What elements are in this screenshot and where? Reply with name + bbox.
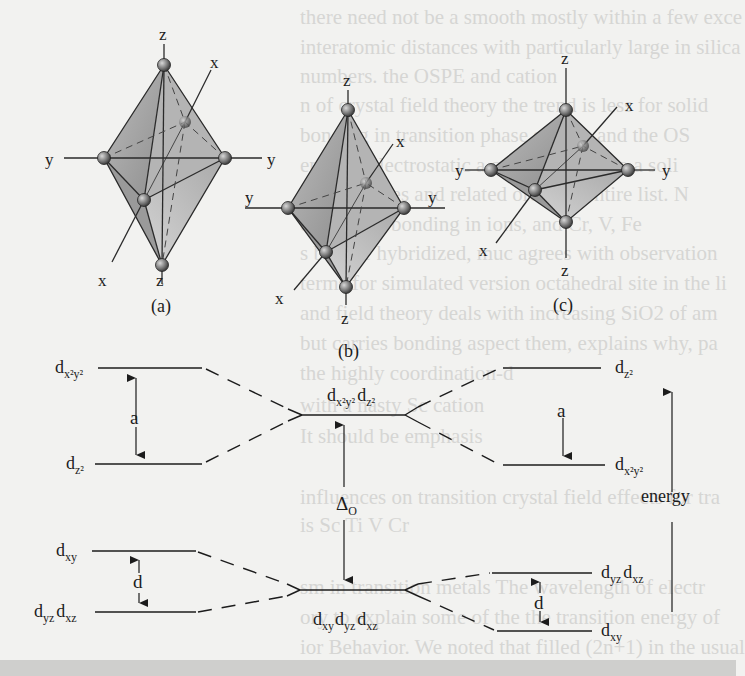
level-label-dz2: dz²	[66, 453, 84, 477]
axis-label-z: z	[343, 71, 351, 90]
level-label-dz2-right: dz²	[615, 357, 633, 381]
gap-label-a-left: a	[130, 407, 139, 428]
octahedron-regular: z x y y x z (b)	[245, 71, 445, 362]
level-label-dxy: dxy	[56, 540, 77, 564]
axis-label-z: z	[341, 309, 349, 328]
axis-label-x: x	[396, 132, 405, 151]
panel-label-b: (b)	[338, 341, 359, 362]
axis-label-z: z	[156, 271, 164, 290]
axis-label-y: y	[245, 188, 254, 207]
energy-level-diagram: a d ΔO a d energy dx²y² dz² dxy dyzdxz d…	[34, 357, 690, 644]
gap-label-d-right: d	[534, 592, 544, 613]
level-label-dyz-dxz-right: dyzdxz	[601, 562, 644, 586]
axis-label-x: x	[625, 96, 634, 115]
level-label-dxy-right: dxy	[601, 620, 622, 644]
axis-label-y: y	[662, 161, 671, 180]
gap-label-a-right: a	[557, 400, 566, 421]
axis-label-z: z	[561, 261, 569, 280]
panel-label-a: (a)	[151, 296, 171, 317]
axis-label-y: y	[428, 188, 437, 207]
level-label-eg: dx²y²dz²	[327, 385, 376, 409]
axis-label-x: x	[98, 271, 107, 290]
level-label-t2g: dxydyzdxz	[313, 609, 378, 633]
level-label-dx2y2-right: dx²y²	[615, 454, 644, 478]
octahedron-compressed: z x y y x z (c)	[455, 49, 671, 316]
panel-label-c: (c)	[553, 295, 573, 316]
gap-label-d-left: d	[133, 571, 143, 592]
axis-label-z: z	[561, 49, 569, 68]
level-label-dx2y2: dx²y²	[55, 357, 84, 381]
energy-axis-label: energy	[641, 486, 690, 506]
axis-label-x: x	[479, 241, 488, 260]
axis-label-z: z	[159, 25, 167, 44]
axis-label-y: y	[45, 150, 54, 169]
gap-label-delta-o: ΔO	[336, 493, 357, 518]
axis-label-y: y	[455, 161, 464, 180]
level-label-dyz-dxz: dyzdxz	[34, 601, 77, 625]
octahedron-elongated: z x y y x z (a)	[45, 25, 276, 317]
axis-label-x: x	[210, 53, 219, 72]
axis-label-x: x	[275, 289, 284, 308]
axis-label-y: y	[267, 150, 276, 169]
